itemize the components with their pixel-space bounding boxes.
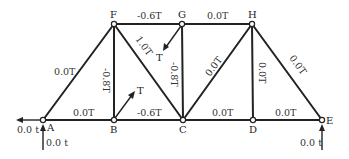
node-A bbox=[40, 117, 45, 122]
node-G bbox=[179, 21, 184, 26]
member-GC bbox=[182, 24, 183, 120]
force-label-GH: 0.0T bbox=[207, 10, 229, 21]
force-label-AB: 0.0T bbox=[73, 107, 95, 118]
load-label-G: T bbox=[156, 52, 163, 63]
node-label-E: E bbox=[326, 115, 333, 126]
node-label-C: C bbox=[179, 124, 187, 135]
arrowhead-up-right-icon bbox=[128, 91, 135, 99]
node-C bbox=[180, 117, 185, 122]
reaction-label-E-vertical: 0.0 t bbox=[300, 137, 322, 148]
force-label-HD: 0.0T bbox=[257, 62, 268, 84]
force-label-CD: 0.0T bbox=[212, 107, 234, 118]
member-CH bbox=[183, 24, 252, 120]
node-H bbox=[249, 21, 254, 26]
force-label-DE: 0.0T bbox=[275, 107, 297, 118]
force-label-BF: -0.8T bbox=[101, 68, 112, 93]
load-label-B: T bbox=[137, 85, 144, 96]
node-F bbox=[111, 21, 116, 26]
node-label-G: G bbox=[178, 9, 186, 20]
member-HD bbox=[252, 24, 253, 120]
load-arrow-G bbox=[166, 26, 181, 47]
node-label-A: A bbox=[46, 122, 55, 133]
force-label-BC: -0.6T bbox=[137, 107, 162, 118]
node-label-F: F bbox=[110, 9, 117, 20]
reaction-label-A-horizontal: 0.0 t bbox=[17, 124, 39, 135]
force-label-GC: -0.8T bbox=[169, 62, 180, 87]
node-D bbox=[250, 117, 255, 122]
truss-diagram: A B C D E F G H 0.0T -0.6T 0.0T 0.0T -0.… bbox=[0, 0, 349, 159]
node-B bbox=[111, 117, 116, 122]
force-label-FG: -0.6T bbox=[137, 10, 162, 21]
reaction-labels: 0.0 t 0.0 t 0.0 t bbox=[17, 124, 322, 148]
node-label-H: H bbox=[248, 9, 257, 20]
members bbox=[43, 24, 322, 120]
node-E bbox=[319, 117, 324, 122]
node-label-B: B bbox=[110, 124, 117, 135]
force-label-HE: 0.0T bbox=[287, 53, 309, 77]
force-label-AF: 0.0T bbox=[54, 66, 76, 77]
reaction-label-A-vertical: 0.0 t bbox=[46, 137, 68, 148]
node-label-D: D bbox=[249, 124, 257, 135]
load-arrow-B bbox=[115, 95, 132, 118]
arrowhead-up-icon bbox=[40, 124, 46, 131]
arrowhead-left-icon bbox=[16, 117, 23, 123]
arrowhead-up-icon bbox=[319, 124, 325, 131]
